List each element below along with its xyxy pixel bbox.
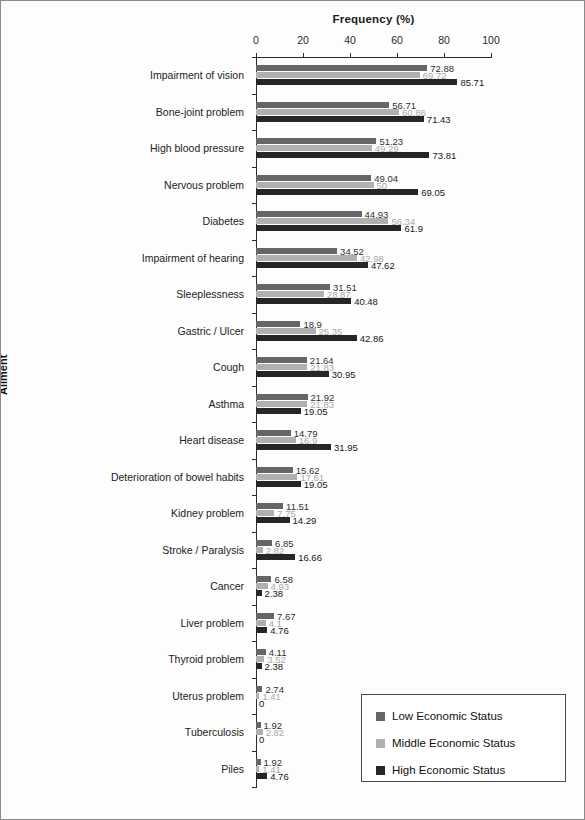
bar <box>256 248 337 254</box>
y-category-label: Uterus problem <box>172 690 244 702</box>
legend-label: High Economic Status <box>392 764 505 776</box>
legend-item: Low Economic Status <box>376 704 565 728</box>
bar <box>256 722 261 728</box>
bar-group: 4.113.522.38 <box>256 641 491 678</box>
bar-value-label: 40.48 <box>354 297 378 306</box>
bar <box>256 255 357 261</box>
bar <box>256 401 307 407</box>
bar <box>256 116 424 122</box>
x-tick-label: 60 <box>391 34 403 46</box>
y-category-label: Tuberculosis <box>185 726 244 738</box>
bar-group: 18.925.3542.86 <box>256 313 491 350</box>
bar <box>256 175 371 181</box>
bar <box>256 335 357 341</box>
bar <box>256 627 267 633</box>
y-category-label: Cancer <box>210 580 244 592</box>
bar <box>256 467 293 473</box>
bar <box>256 225 401 231</box>
bar-group: 44.9356.3461.9 <box>256 203 491 240</box>
bar <box>256 262 368 268</box>
bar-group: 56.7160.8671.43 <box>256 94 491 131</box>
bar <box>256 437 296 443</box>
bar-value-label: 4.76 <box>270 626 289 635</box>
bar <box>256 291 324 297</box>
bar <box>256 474 297 480</box>
legend-swatch-icon <box>376 739 385 748</box>
y-category-label: Cough <box>213 361 244 373</box>
bar-value-label: 30.95 <box>332 370 356 379</box>
legend-label: Middle Economic Status <box>392 737 515 749</box>
y-category-label: Deterioration of bowel habits <box>111 471 244 483</box>
y-category-label: Piles <box>221 763 244 775</box>
bar-value-label: 16.66 <box>298 553 322 562</box>
bar <box>256 138 376 144</box>
bar <box>256 430 291 436</box>
bar-value-label: 31.95 <box>334 443 358 452</box>
bar <box>256 109 399 115</box>
bar <box>256 189 418 195</box>
legend-item: High Economic Status <box>376 758 565 782</box>
bar <box>256 371 329 377</box>
bar <box>256 152 429 158</box>
bar-group: 21.9221.8319.05 <box>256 386 491 423</box>
bar-group: 14.7916.931.95 <box>256 422 491 459</box>
legend-item: Middle Economic Status <box>376 731 565 755</box>
bar-value-label: 61.9 <box>404 224 423 233</box>
chart-figure: Frequency (%) 020406080100 72.8869.7285.… <box>0 0 585 820</box>
y-category-label: Thyroid problem <box>168 653 244 665</box>
bar <box>256 65 427 71</box>
bar <box>256 444 331 450</box>
x-axis-title: Frequency (%) <box>256 13 491 25</box>
y-category-label: Stroke / Paralysis <box>162 544 244 556</box>
bar <box>256 759 261 765</box>
bar <box>256 766 259 772</box>
bar <box>256 182 374 188</box>
bar-group: 7.674.14.76 <box>256 605 491 642</box>
bar <box>256 590 262 596</box>
bar <box>256 145 372 151</box>
bar-value-label: 85.71 <box>460 78 484 87</box>
plot-area: 72.8869.7285.7156.7160.8671.4351.2349.29… <box>256 57 491 787</box>
legend-swatch-icon <box>376 712 385 721</box>
bar-group: 6.852.8216.66 <box>256 532 491 569</box>
bar-value-label: 0 <box>259 699 264 708</box>
y-axis-category-labels: Impairment of visionBone-joint problemHi… <box>41 57 251 787</box>
y-category-label: Diabetes <box>203 215 244 227</box>
bar <box>256 357 307 363</box>
bar <box>256 394 308 400</box>
bar <box>256 517 290 523</box>
x-tick-label: 100 <box>482 34 500 46</box>
bar <box>256 328 316 334</box>
bar <box>256 79 457 85</box>
bar <box>256 554 295 560</box>
x-tick-label: 20 <box>297 34 309 46</box>
bar-value-label: 69.05 <box>421 188 445 197</box>
y-category-label: Impairment of hearing <box>142 252 244 264</box>
bar <box>256 298 351 304</box>
y-category-label: Impairment of vision <box>150 69 244 81</box>
bar <box>256 218 388 224</box>
bar-value-label: 1.41 <box>262 692 281 701</box>
bar <box>256 284 330 290</box>
bar <box>256 576 271 582</box>
y-category-label: Heart disease <box>179 434 244 446</box>
y-category-label: High blood pressure <box>150 142 244 154</box>
bar-value-label: 14.29 <box>293 516 317 525</box>
bar-value-label: 19.05 <box>304 480 328 489</box>
y-category-label: Asthma <box>208 398 244 410</box>
bar-value-label: 2.38 <box>265 589 284 598</box>
x-tick-label: 40 <box>344 34 356 46</box>
y-category-label: Kidney problem <box>171 507 244 519</box>
y-axis-title: Ailment <box>0 355 9 395</box>
bar-group: 34.5242.9847.62 <box>256 240 491 277</box>
bar-group: 6.584.932.38 <box>256 568 491 605</box>
bar <box>256 656 264 662</box>
bar-value-label: 73.81 <box>432 151 456 160</box>
bar <box>256 408 301 414</box>
bar-group: 31.5128.8740.48 <box>256 276 491 313</box>
bar-value-label: 4.76 <box>270 772 289 781</box>
bar <box>256 510 274 516</box>
legend-label: Low Economic Status <box>392 710 503 722</box>
bar <box>256 481 301 487</box>
bar-group: 51.2349.2973.81 <box>256 130 491 167</box>
